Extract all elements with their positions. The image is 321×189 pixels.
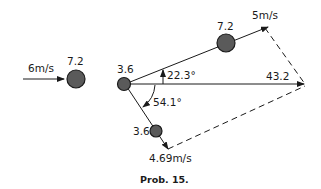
lower-velocity-line: [125, 84, 168, 149]
lower-angle-label: 54.1°: [153, 97, 182, 108]
upper-velocity-label: 5m/s: [252, 10, 278, 21]
center-mass-label: 3.6: [117, 64, 134, 75]
lower-particle: [150, 125, 162, 137]
upper-angle-label: 22.3°: [167, 70, 196, 81]
caption: Prob. 15.: [140, 174, 189, 185]
incoming-particle: [67, 70, 85, 88]
upper-velocity-line: [125, 27, 268, 84]
upper-mass-label: 7.2: [217, 21, 234, 32]
resultant-label: 43.2: [266, 71, 289, 82]
incoming-mass-label: 7.2: [67, 56, 84, 67]
lower-velocity-label: 4.69m/s: [149, 153, 192, 164]
lower-mass-label: 3.6: [133, 126, 150, 137]
upper-particle: [217, 34, 235, 52]
center-particle: [118, 78, 131, 91]
dashed-line-lower: [168, 86, 305, 149]
incoming-velocity-label: 6m/s: [28, 63, 54, 74]
